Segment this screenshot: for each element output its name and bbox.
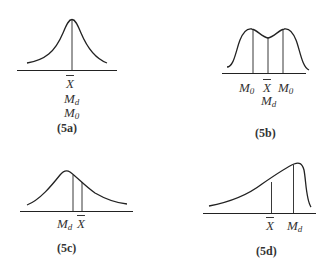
caption-5c: (5c): [57, 241, 76, 256]
label-5a-mean: X: [66, 77, 74, 90]
panel-5c-curve: [20, 171, 133, 212]
label-5d-median: Md: [287, 219, 302, 236]
label-5d-mean: X: [266, 219, 274, 232]
label-5b-mode-left: M0: [239, 81, 254, 98]
label-5c-mean: X: [77, 217, 85, 230]
label-5c-median: Md: [57, 217, 72, 234]
label-5b-mode-right: M0: [278, 81, 293, 98]
panel-5d-curve: [203, 163, 316, 213]
distribution-figures: [0, 0, 334, 267]
caption-5a: (5a): [57, 121, 77, 136]
panel-5a-curve: [17, 20, 117, 71]
caption-5d: (5d): [256, 244, 277, 259]
panel-5b-curve: [222, 29, 309, 74]
label-5b-median: Md: [261, 94, 276, 111]
caption-5b: (5b): [255, 126, 276, 141]
